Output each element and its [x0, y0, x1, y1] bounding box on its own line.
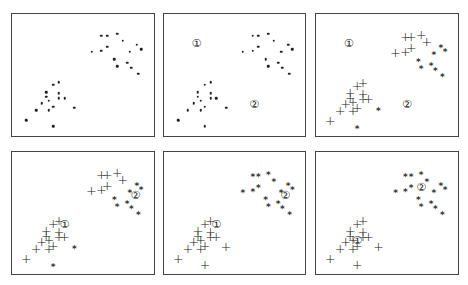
- data-point: [58, 97, 61, 100]
- cluster2-point: *: [403, 172, 408, 181]
- data-point: [140, 48, 143, 51]
- cluster2-point: *: [287, 210, 292, 219]
- data-point: [137, 73, 140, 76]
- panel-3: +++++++********++++++++++++*+*①②: [315, 13, 459, 137]
- cluster1-point: +: [325, 114, 336, 127]
- cluster1-point: +: [335, 242, 346, 255]
- data-point: [209, 81, 212, 84]
- data-point: [130, 66, 133, 69]
- panel-4: +++++++********++++++++++++*+*①②: [11, 151, 155, 275]
- cluster2-point: *: [443, 186, 448, 195]
- cluster1-point: +: [183, 242, 194, 255]
- cluster1-point: +: [102, 178, 113, 191]
- centroid-1-marker: ①: [60, 218, 70, 229]
- cluster2-point: *: [241, 188, 246, 197]
- cluster2-point: *: [432, 50, 437, 59]
- centroid-1-marker: ①: [344, 38, 354, 49]
- data-point: [277, 62, 280, 65]
- data-point: [252, 35, 255, 38]
- data-point: [225, 107, 228, 110]
- data-point: [52, 125, 55, 128]
- data-point: [209, 92, 212, 95]
- cluster2-point: *: [250, 187, 255, 196]
- data-point: [90, 51, 93, 54]
- data-point: [73, 107, 76, 110]
- data-point: [280, 51, 283, 54]
- panel-2: ①②: [163, 13, 306, 137]
- data-point: [48, 99, 51, 102]
- cluster1-point: +: [347, 104, 358, 117]
- data-point: [106, 46, 109, 49]
- centroid-1-marker: ①: [191, 38, 201, 49]
- cluster2-point: *: [409, 172, 414, 181]
- data-point: [288, 73, 291, 76]
- data-point: [197, 91, 200, 94]
- cluster2-point: *: [290, 186, 295, 195]
- data-point: [106, 35, 109, 38]
- cluster2-point: *: [115, 203, 120, 212]
- panel-6: ***************+++++++++++++++①②: [315, 151, 459, 275]
- data-point: [187, 109, 190, 112]
- cluster2-point: *: [72, 244, 77, 253]
- cluster2-point: *: [409, 183, 414, 192]
- data-point: [273, 40, 276, 43]
- data-point: [136, 43, 139, 46]
- data-point: [52, 84, 55, 87]
- data-point: [257, 35, 260, 38]
- cluster2-point: *: [403, 187, 408, 196]
- cluster2-point: *: [443, 48, 448, 57]
- cluster2-point: *: [440, 210, 445, 219]
- centroid-2-marker: ②: [402, 99, 412, 110]
- centroid-2-marker: ②: [416, 182, 426, 193]
- cluster2-point: *: [440, 72, 445, 81]
- cluster2-point: *: [250, 172, 255, 181]
- cluster1-point: +: [43, 242, 54, 255]
- cluster1-point: +: [352, 258, 363, 271]
- data-point: [192, 102, 195, 105]
- data-point: [113, 58, 116, 61]
- data-point: [35, 109, 38, 112]
- cluster1-point: +: [221, 239, 232, 252]
- cluster1-point: +: [31, 242, 42, 255]
- cluster2-point: *: [393, 188, 398, 197]
- cluster2-point: *: [419, 170, 424, 179]
- centroid-1-marker: ①: [211, 218, 221, 229]
- cluster2-point: *: [272, 177, 277, 186]
- data-point: [215, 97, 218, 100]
- data-point: [177, 119, 180, 122]
- cluster2-point: *: [419, 203, 424, 212]
- data-point: [129, 51, 132, 54]
- data-point: [52, 105, 55, 108]
- data-point: [287, 43, 290, 46]
- data-point: [264, 58, 267, 61]
- data-point: [116, 32, 119, 35]
- cluster2-point: *: [256, 172, 261, 181]
- data-point: [199, 109, 202, 112]
- data-point: [58, 81, 61, 84]
- cluster1-point: +: [195, 242, 206, 255]
- data-point: [252, 49, 255, 52]
- data-point: [204, 105, 207, 108]
- data-point: [267, 32, 270, 35]
- cluster1-point: +: [21, 252, 32, 265]
- data-point: [45, 91, 48, 94]
- data-point: [199, 99, 202, 102]
- cluster2-point: *: [266, 170, 271, 179]
- data-point: [58, 92, 61, 95]
- cluster2-point: *: [51, 263, 56, 272]
- data-point: [126, 62, 129, 65]
- data-point: [116, 65, 119, 68]
- centroid-2-marker: ②: [249, 99, 259, 110]
- cluster1-point: +: [421, 34, 432, 47]
- data-point: [25, 119, 28, 122]
- data-point: [242, 51, 245, 54]
- data-point: [63, 97, 66, 100]
- data-point: [100, 35, 103, 38]
- cluster1-point: +: [406, 40, 417, 53]
- panel-5: ***************+++++++++++++++①②: [163, 151, 306, 275]
- data-point: [204, 84, 207, 87]
- cluster2-point: *: [419, 65, 424, 74]
- data-point: [48, 109, 51, 112]
- cluster2-point: *: [355, 125, 360, 134]
- cluster2-point: *: [280, 204, 285, 213]
